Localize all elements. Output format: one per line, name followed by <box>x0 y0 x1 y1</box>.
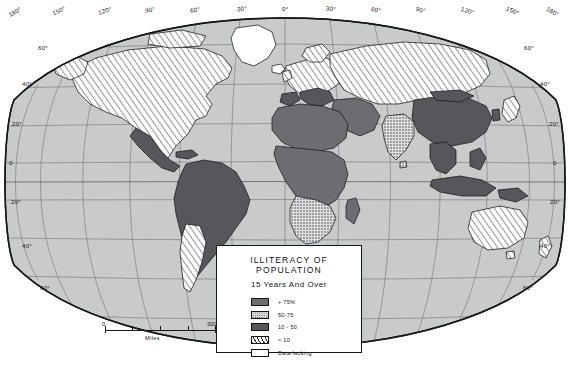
scale-tick-3 <box>188 326 189 331</box>
lon-label-60e: 60° <box>371 5 382 13</box>
scale-label-start: 0 <box>102 321 105 327</box>
legend-swatch-stipple-icon <box>251 311 269 319</box>
lon-label-0: 0° <box>282 5 288 12</box>
lat-label-right-0: 0 <box>553 159 557 166</box>
legend-swatch-blank-icon <box>251 349 269 357</box>
lon-label-30w: 30° <box>237 5 248 13</box>
lat-label-left-60s: 60° <box>40 284 50 291</box>
legend-box: ILLITERACY OF POPULATION 15 Years And Ov… <box>216 245 362 353</box>
region-ceylon <box>400 161 407 168</box>
lat-label-left-60n: 60° <box>38 44 48 51</box>
lat-label-left-0: 0 <box>9 159 13 166</box>
legend-row-over-75: + 75% <box>251 296 361 309</box>
world-illiteracy-map-figure: 180° 150° 120° 90° 60° 30° 0° 30° 60° 90… <box>0 0 570 365</box>
legend-label-data-lacking: Data lacking <box>278 350 312 356</box>
legend-subtitle: 15 Years And Over <box>217 280 361 289</box>
lat-label-right-40n: 40° <box>540 80 550 87</box>
legend-entry-list: + 75% 50-75 10 - 50 < 10 Data lacking <box>251 296 361 359</box>
scale-unit-label: Miles <box>145 335 160 341</box>
legend-row-under-10: < 10 <box>251 334 361 347</box>
lon-label-30e: 30° <box>326 5 337 13</box>
legend-label-10-50: 10 - 50 <box>278 324 297 330</box>
scale-bar: 0 3000 Miles <box>100 322 220 346</box>
scale-tick-2 <box>160 326 161 331</box>
legend-label-50-75: 50-75 <box>278 312 294 318</box>
lat-label-left-40s: 40° <box>22 242 32 249</box>
region-korea <box>492 109 500 121</box>
legend-row-10-50: 10 - 50 <box>251 321 361 334</box>
lat-label-right-20n: 20° <box>549 120 559 127</box>
legend-title: ILLITERACY OF POPULATION <box>217 255 361 275</box>
lat-label-left-40n: 40° <box>22 80 32 87</box>
legend-row-50-75: 50-75 <box>251 309 361 322</box>
region-tasmania <box>506 251 515 259</box>
legend-swatch-hatch-icon <box>251 336 269 344</box>
scale-tick-1 <box>132 326 133 331</box>
legend-swatch-solid-dark-icon <box>251 298 269 306</box>
legend-label-under-10: < 10 <box>278 337 290 343</box>
lat-label-left-20s: 20° <box>11 198 21 205</box>
legend-swatch-solid-medium-icon <box>251 323 269 331</box>
scale-tick-start <box>105 326 106 333</box>
lat-label-right-40s: 40° <box>540 242 550 249</box>
lat-label-right-60n: 60° <box>524 44 534 51</box>
legend-label-over-75: + 75% <box>278 299 295 305</box>
lat-label-right-60s: 60° <box>523 284 533 291</box>
legend-row-data-lacking: Data lacking <box>251 346 361 359</box>
lat-label-left-20n: 20° <box>12 120 22 127</box>
lat-label-right-20s: 20° <box>550 198 560 205</box>
